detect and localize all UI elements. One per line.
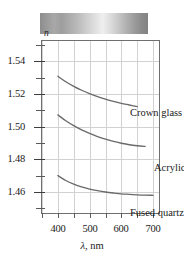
curve-acrylic <box>58 115 145 147</box>
x-axis-tick-label: 600 <box>113 223 128 234</box>
x-axis-title: λ, nm <box>0 240 184 251</box>
dispersion-curves <box>42 41 161 215</box>
visible-spectrum-bar <box>40 13 148 34</box>
y-axis-tick-label: 1.52 <box>7 88 25 99</box>
refractive-index-dispersion-figure: n 1.54 1.52 1.50 1 <box>0 0 184 263</box>
y-axis-tick-label: 1.50 <box>7 121 25 132</box>
y-axis-tick-label: 1.48 <box>7 153 25 164</box>
curve-fused-quartz <box>58 176 153 196</box>
y-axis-tick-label: 1.46 <box>7 186 25 197</box>
y-axis-title: n <box>44 28 49 38</box>
curve-label-fused-quartz: Fused quartz <box>130 207 184 218</box>
x-axis-tick-label: 700 <box>145 223 160 234</box>
curve-label-acrylic: Acrylic <box>154 162 184 173</box>
x-axis-unit: , nm <box>85 240 104 251</box>
plot-area: 1.54 1.52 1.50 1.48 1.46 400 500 600 700 <box>41 40 160 214</box>
curve-label-crown-glass: Crown glass <box>130 107 182 118</box>
curve-crown-glass <box>58 76 137 106</box>
x-axis-tick-label: 500 <box>82 223 97 234</box>
y-axis-tick-label: 1.54 <box>7 55 25 66</box>
x-axis-tick-label: 400 <box>50 223 65 234</box>
